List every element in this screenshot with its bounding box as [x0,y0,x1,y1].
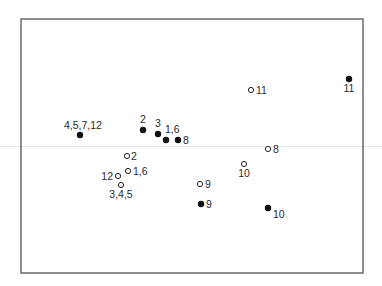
open-circle-marker-icon [124,153,129,158]
point-label: 10 [238,167,250,179]
point-label: 4,5,7,12 [64,119,102,131]
open-circle-marker-icon [248,87,253,92]
point-label: 11 [256,84,267,96]
data-point-open: 3,4,5 [109,182,133,200]
data-point-filled: 10 [265,205,285,220]
point-label: 12 [101,170,113,182]
data-point-open: 10 [238,161,250,179]
point-label: 8 [183,134,189,146]
plot-frame [21,19,363,273]
point-label: 3,4,5 [109,188,133,200]
scatter-plot: 4,5,7,12231,681191021,6123,4,5910811 [0,0,382,286]
data-point-open: 8 [265,143,279,155]
filled-circle-marker-icon [163,137,169,143]
point-label: 8 [273,143,279,155]
point-label: 1,6 [133,165,148,177]
data-point-filled: 9 [198,198,212,210]
filled-circle-marker-icon [77,132,83,138]
open-circle-marker-icon [118,182,123,187]
point-label: 2 [131,150,137,162]
point-label: 9 [205,178,211,190]
data-point-filled: 4,5,7,12 [64,119,102,138]
open-circle-marker-icon [115,173,120,178]
data-point-open: 12 [101,170,120,182]
point-label: 1,6 [165,123,180,135]
filled-circle-marker-icon [198,201,204,207]
point-label: 11 [344,82,355,94]
data-point-filled: 2 [140,113,146,133]
open-circle-marker-icon [197,181,202,186]
point-label: 2 [140,113,146,125]
point-label: 9 [206,198,212,210]
data-point-filled: 8 [175,134,189,146]
open-circle-marker-icon [265,146,270,151]
open-circle-marker-icon [241,161,246,166]
open-circle-marker-icon [125,168,130,173]
filled-circle-marker-icon [175,137,181,143]
data-point-open: 1,6 [125,165,147,177]
data-point-open: 11 [248,84,267,96]
filled-circle-marker-icon [155,131,161,137]
data-point-open: 9 [197,178,211,190]
filled-circle-marker-icon [140,127,146,133]
data-point-filled: 3 [155,117,161,137]
point-label: 10 [273,208,285,220]
data-point-filled: 11 [344,76,355,94]
data-points: 4,5,7,12231,681191021,6123,4,5910811 [64,76,355,220]
data-point-open: 2 [124,150,137,162]
point-label: 3 [155,117,161,129]
filled-circle-marker-icon [265,205,271,211]
